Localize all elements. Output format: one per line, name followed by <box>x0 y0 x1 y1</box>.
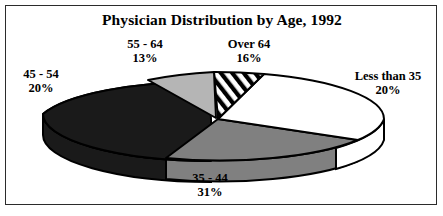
pie-label-35-44: 35 - 44 31% <box>174 171 246 199</box>
pie-label-less-than-35-value: 20% <box>342 83 434 97</box>
pie-label-45-54: 45 - 54 20% <box>9 67 73 95</box>
chart-frame: Physician Distribution by Age, 1992 <box>5 5 437 205</box>
pie-label-35-44-name: 35 - 44 <box>174 171 246 185</box>
pie-label-over-64: Over 64 16% <box>213 37 285 65</box>
pie-top-face <box>43 72 384 161</box>
pie-label-55-64-value: 13% <box>109 51 181 65</box>
pie-label-55-64: 55 - 64 13% <box>109 37 181 65</box>
pie-label-35-44-value: 31% <box>174 185 246 199</box>
pie-label-45-54-value: 20% <box>9 81 73 95</box>
pie-chart: 55 - 64 13% Over 64 16% 45 - 54 20% Less… <box>6 6 438 206</box>
pie-label-over-64-value: 16% <box>213 51 285 65</box>
pie-label-less-than-35: Less than 35 20% <box>342 69 434 97</box>
pie-label-45-54-name: 45 - 54 <box>9 67 73 81</box>
pie-label-55-64-name: 55 - 64 <box>109 37 181 51</box>
pie-label-less-than-35-name: Less than 35 <box>342 69 434 83</box>
pie-label-over-64-name: Over 64 <box>213 37 285 51</box>
